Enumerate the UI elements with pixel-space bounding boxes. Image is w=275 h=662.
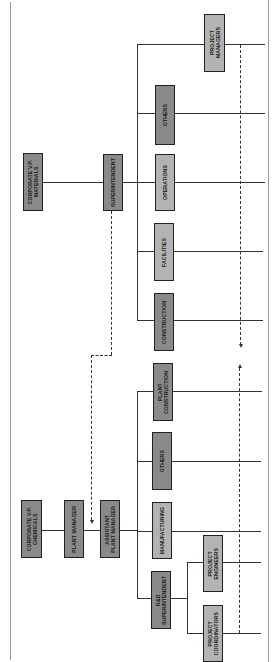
dashed-link-horizontal <box>91 355 112 356</box>
facilities-label: FACILITIES <box>161 238 167 267</box>
plant-manager-label: PLANT MANAGER <box>71 506 77 553</box>
plant-manager-box[interactable]: PLANT MANAGER <box>64 500 84 558</box>
figure-caption <box>0 380 8 520</box>
corporate-vp-materials-label: CORPORATE V.P. MATERIALS <box>27 160 39 204</box>
construction-box[interactable]: CONSTRUCTION <box>154 293 174 351</box>
materials-others-box[interactable]: OTHERS <box>155 85 175 145</box>
rd-subtrunk-line <box>187 562 188 634</box>
connector-cvp-materials-superintendent <box>42 182 103 183</box>
project-engineers-label: PROJECT ENGINEERS <box>207 548 219 579</box>
connector-asst-trunk <box>119 530 137 531</box>
project-managers-box[interactable]: PROJECT MANAGERS <box>204 14 225 72</box>
corporate-vp-chemicals-box[interactable]: CORPORATE V.P. CHEMICALS <box>21 500 42 558</box>
right-border-line <box>268 0 269 662</box>
superintendent-box[interactable]: SUPERINTENDENT <box>103 154 123 211</box>
dashed-link-superintendent-down <box>111 211 112 355</box>
manufacturing-label: MANUFACTURING <box>159 507 165 554</box>
operations-box[interactable]: OPERATIONS <box>155 154 175 211</box>
branch-project-engineers <box>187 562 261 563</box>
manufacturing-box[interactable]: MANUFACTURING <box>152 502 172 559</box>
branch-project-managers <box>137 44 265 45</box>
dashed-link-project-coordinators <box>239 368 240 633</box>
project-coordinators-box[interactable]: PROJECT COORDINATORS <box>203 605 223 662</box>
branch-project-coordinators <box>187 633 261 634</box>
assistant-plant-manager-box[interactable]: ASSISTANT PLANT MANAGER <box>100 500 120 558</box>
dashed-link-to-plant-manager <box>91 355 92 520</box>
project-managers-label: PROJECT MANAGERS <box>209 27 221 58</box>
construction-label: CONSTRUCTION <box>161 301 167 344</box>
project-engineers-box[interactable]: PROJECT ENGINEERS <box>203 535 223 592</box>
materials-others-label: OTHERS <box>162 104 168 126</box>
dashed-link-project-managers <box>240 45 241 345</box>
connector-rd-subtrunk <box>171 598 187 599</box>
project-coordinators-label: PROJECT COORDINATORS <box>207 612 219 655</box>
plant-construction-label: PLANT CONSTRUCTION <box>157 371 169 414</box>
rd-superintendent-box[interactable]: R&D SUPERINTENDENT <box>151 571 171 629</box>
assistant-plant-manager-label: ASSISTANT PLANT MANAGER <box>104 506 116 553</box>
plant-construction-box[interactable]: PLANT CONSTRUCTION <box>153 363 173 421</box>
arrow-down-icon <box>239 344 243 348</box>
rd-superintendent-label: R&D SUPERINTENDENT <box>155 576 167 625</box>
operations-label: OPERATIONS <box>162 165 168 200</box>
corporate-vp-materials-box[interactable]: CORPORATE V.P. MATERIALS <box>23 153 43 211</box>
facilities-box[interactable]: FACILITIES <box>154 223 174 281</box>
corporate-vp-chemicals-label: CORPORATE V.P. CHEMICALS <box>26 507 38 551</box>
branch-rd-superintendent <box>137 598 152 599</box>
arrow-down-icon <box>90 520 94 524</box>
chemicals-others-label: OTHERS <box>159 450 165 472</box>
connector-superintendent-trunk <box>122 182 137 183</box>
connector-plant-manager-asst <box>83 530 100 531</box>
chemicals-others-box[interactable]: OTHERS <box>152 432 172 490</box>
connector-cvp-chemicals-plant-manager <box>41 530 64 531</box>
superintendent-label: SUPERINTENDENT <box>110 158 116 207</box>
chemicals-trunk-line <box>137 391 138 599</box>
left-border-line <box>10 2 11 660</box>
